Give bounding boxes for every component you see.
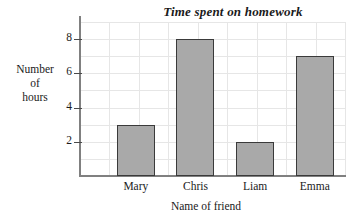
y-axis-tick-label: 6	[52, 65, 72, 77]
bar-chart: Time spent on homework Number of hours 2…	[0, 0, 362, 223]
y-axis-label-line-2: of	[4, 76, 66, 90]
x-axis-label: Name of friend	[81, 200, 331, 212]
x-axis-tick-labels: MaryChrisLiamEmma	[81, 180, 346, 198]
bars-layer	[81, 22, 346, 176]
chart-title: Time spent on homework	[118, 4, 348, 20]
bar-mary	[117, 125, 155, 176]
y-axis-tick-label: 8	[52, 31, 72, 43]
bar-chris	[176, 39, 214, 176]
bar-liam	[236, 142, 274, 176]
y-axis-tick-label: 2	[52, 134, 72, 146]
bar-emma	[296, 56, 334, 176]
x-axis-tick-label: Emma	[275, 180, 355, 192]
y-axis-tick-label: 4	[52, 100, 72, 112]
